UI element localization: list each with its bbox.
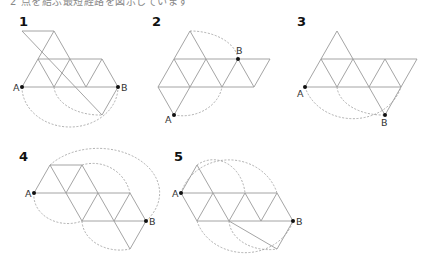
point-a-label: A (297, 88, 304, 99)
figure-3: 3 A B (297, 14, 417, 128)
point-b-label: B (121, 82, 128, 93)
figure-number: 4 (19, 149, 28, 164)
figure-number: 2 (152, 14, 161, 29)
figure-1: 1 A B (13, 14, 128, 127)
point-a-label: A (165, 114, 172, 125)
point-b-label: B (236, 45, 243, 56)
point-a-label: A (172, 188, 179, 199)
point-b-label: B (381, 117, 388, 128)
figure-4: 4 A B (19, 148, 160, 250)
point-a-label: A (13, 82, 20, 93)
figure-number: 5 (174, 149, 183, 164)
figure-number: 3 (297, 14, 306, 29)
figure-5: 5 A B (172, 149, 303, 253)
point-b-label: B (149, 216, 156, 227)
figure-2: 2 B A (152, 14, 270, 125)
point-a-label: A (25, 188, 32, 199)
nets-diagram: 1 A B 2 B A 3 A B 4 (0, 0, 432, 271)
point-b-label: B (296, 216, 303, 227)
figure-number: 1 (19, 14, 28, 29)
